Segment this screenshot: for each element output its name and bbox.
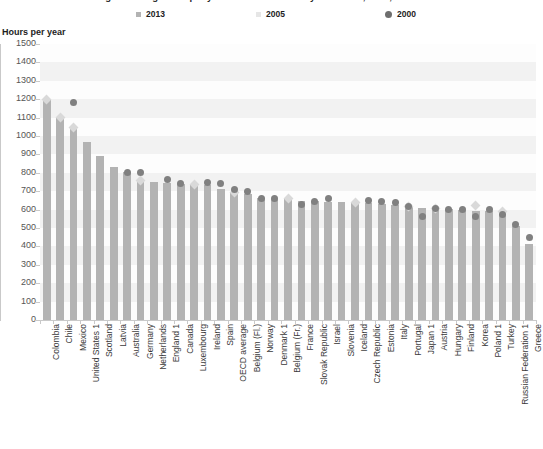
- x-axis-tick-label[interactable]: Slovak Republic: [319, 324, 329, 385]
- bar[interactable]: [244, 194, 252, 320]
- marker-2000[interactable]: [325, 195, 332, 202]
- legend-item-2013[interactable]: 2013: [136, 9, 165, 20]
- x-axis-tick-label[interactable]: Germany: [145, 324, 155, 359]
- x-axis-tick-label[interactable]: Luxembourg: [198, 324, 208, 371]
- x-axis-tick-label[interactable]: Poland 1: [493, 324, 503, 358]
- x-axis-tick-label[interactable]: Slovenia: [346, 324, 356, 357]
- marker-2000[interactable]: [244, 188, 251, 195]
- bar[interactable]: [458, 210, 466, 320]
- marker-2000[interactable]: [271, 195, 278, 202]
- marker-2000[interactable]: [258, 195, 265, 202]
- bar[interactable]: [190, 184, 198, 320]
- marker-2000[interactable]: [124, 169, 131, 176]
- bar[interactable]: [512, 226, 520, 320]
- bar[interactable]: [257, 198, 265, 320]
- bar[interactable]: [418, 208, 426, 320]
- x-axis-tick-label[interactable]: Ireland: [212, 324, 222, 350]
- bar[interactable]: [177, 184, 185, 320]
- x-axis-tick-label[interactable]: Australia: [131, 324, 141, 357]
- legend-item-2000[interactable]: 2000: [385, 9, 416, 20]
- y-axis-tick-label: 1300: [2, 76, 36, 85]
- legend-label-2005: 2005: [266, 9, 285, 20]
- marker-2005[interactable]: [471, 200, 481, 210]
- marker-2000[interactable]: [164, 176, 171, 183]
- bar[interactable]: [338, 202, 346, 320]
- bar[interactable]: [391, 205, 399, 320]
- x-axis-tick-label[interactable]: Iceland: [359, 324, 369, 351]
- x-axis-tick-label[interactable]: OECD average: [238, 324, 248, 382]
- bar[interactable]: [445, 209, 453, 320]
- bar[interactable]: [230, 192, 238, 320]
- y-axis-tick-label: 100: [2, 297, 36, 306]
- bar[interactable]: [163, 183, 171, 320]
- marker-2000[interactable]: [70, 99, 77, 106]
- x-axis-tick-label[interactable]: Korea: [480, 324, 490, 347]
- plot-area: [40, 44, 536, 320]
- bar[interactable]: [485, 211, 493, 320]
- x-axis-tick-label[interactable]: Canada: [185, 324, 195, 354]
- bar[interactable]: [284, 199, 292, 320]
- x-axis-tick-label[interactable]: Japan 1: [426, 324, 436, 354]
- bar[interactable]: [472, 211, 480, 320]
- bar[interactable]: [70, 127, 78, 320]
- bar[interactable]: [298, 201, 306, 320]
- x-axis-tick-label[interactable]: Belgium (Fl.): [252, 324, 262, 372]
- x-axis-tick-label[interactable]: England 1: [171, 324, 181, 362]
- x-axis-tick-label[interactable]: Belgium (Fr.): [292, 324, 302, 373]
- bar[interactable]: [43, 99, 51, 320]
- bar[interactable]: [432, 208, 440, 320]
- x-axis-tick-label[interactable]: Spain: [225, 324, 235, 346]
- x-axis-tick-label[interactable]: Finland: [466, 324, 476, 352]
- bar[interactable]: [499, 214, 507, 320]
- marker-2000[interactable]: [365, 197, 372, 204]
- marker-2000[interactable]: [392, 199, 399, 206]
- marker-2000[interactable]: [204, 179, 211, 186]
- x-axis-tick-label[interactable]: Chile: [64, 324, 74, 343]
- marker-2000[interactable]: [486, 206, 493, 213]
- x-axis-tick-label[interactable]: Turkey: [506, 324, 516, 350]
- bar[interactable]: [525, 244, 533, 320]
- x-axis-tick-label[interactable]: France: [305, 324, 315, 350]
- bar[interactable]: [96, 156, 104, 320]
- bar[interactable]: [271, 199, 279, 320]
- x-axis-tick-label[interactable]: United States 1: [91, 324, 101, 382]
- marker-2000[interactable]: [217, 180, 224, 187]
- marker-2000[interactable]: [231, 186, 238, 193]
- x-axis-tick-label[interactable]: Scotland: [104, 324, 114, 357]
- bar[interactable]: [150, 182, 158, 320]
- x-axis-tick-label[interactable]: Latvia: [118, 324, 128, 347]
- x-axis-tick-label[interactable]: Norway: [265, 324, 275, 353]
- marker-2000[interactable]: [526, 234, 533, 241]
- bar[interactable]: [365, 203, 373, 320]
- x-axis-tick-label[interactable]: Israel: [332, 324, 342, 345]
- x-axis-tick-label[interactable]: Czech Republic: [372, 324, 382, 384]
- x-axis-tick-label[interactable]: Hungary: [453, 324, 463, 356]
- bar[interactable]: [217, 189, 225, 320]
- marker-2000[interactable]: [432, 205, 439, 212]
- chart-title: Average teaching hours per year in lower…: [0, 0, 538, 2]
- bar[interactable]: [378, 204, 386, 320]
- bar[interactable]: [56, 117, 64, 320]
- bar[interactable]: [110, 167, 118, 320]
- bar[interactable]: [123, 172, 131, 320]
- x-axis-tick-label[interactable]: Austria: [439, 324, 449, 350]
- bar[interactable]: [405, 206, 413, 320]
- bar[interactable]: [204, 185, 212, 320]
- marker-2000[interactable]: [137, 169, 144, 176]
- x-axis-tick-label[interactable]: Estonia: [386, 324, 396, 352]
- bar[interactable]: [324, 202, 332, 320]
- x-axis-tick-label[interactable]: Mexico: [78, 324, 88, 351]
- x-axis-tick-label[interactable]: Greece: [533, 324, 543, 352]
- bar[interactable]: [311, 201, 319, 320]
- bar[interactable]: [351, 203, 359, 320]
- marker-2000[interactable]: [499, 211, 506, 218]
- x-axis-tick-label[interactable]: Russian Federation 1: [520, 324, 530, 405]
- x-axis-tick-label[interactable]: Colombia: [51, 324, 61, 360]
- bar[interactable]: [83, 142, 91, 320]
- x-axis-tick-label[interactable]: Netherlands: [158, 324, 168, 370]
- bar[interactable]: [137, 181, 145, 320]
- x-axis-tick-label[interactable]: Denmark 1: [279, 324, 289, 366]
- x-axis-tick-label[interactable]: Italy: [399, 324, 409, 340]
- legend-item-2005[interactable]: 2005: [256, 9, 285, 20]
- x-axis-tick-label[interactable]: Portugal: [413, 324, 423, 356]
